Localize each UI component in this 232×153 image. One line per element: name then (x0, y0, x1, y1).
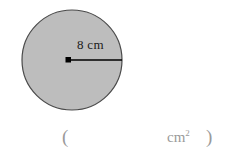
center-point-dot (66, 57, 72, 63)
circle-diagram-svg (0, 0, 232, 120)
radius-measurement-label: 8 cm (77, 37, 104, 52)
worksheet-figure-panel: 8 cm ( cm2 ) (0, 0, 232, 153)
answer-blank-line: ( cm2 ) (0, 124, 232, 153)
circle-figure: 8 cm (0, 0, 232, 120)
answer-open-paren: ( (62, 124, 68, 150)
answer-unit-text: cm (167, 129, 185, 145)
answer-input-blank[interactable] (74, 128, 164, 148)
answer-unit-label: cm2 (167, 126, 190, 148)
answer-unit-exponent: 2 (185, 128, 190, 138)
answer-close-paren: ) (206, 124, 212, 150)
